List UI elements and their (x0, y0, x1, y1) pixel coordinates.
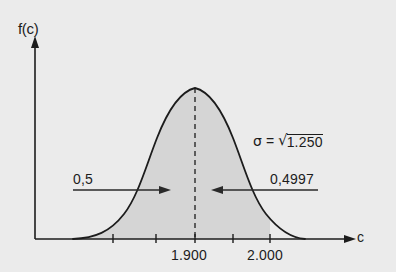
right-area-label: 0,4997 (270, 172, 314, 186)
shaded-area-under-curve (73, 88, 270, 239)
y-axis-label: f(c) (18, 21, 38, 36)
radicand-value: 1.250 (287, 134, 323, 149)
sigma-formula: σ = √ 1.250 (253, 134, 323, 149)
distribution-plot-svg (0, 0, 396, 272)
sigma-symbol: σ (253, 134, 262, 148)
x-tick-label-bound: 2.000 (247, 248, 283, 262)
x-tick-label-mean: 1.900 (171, 248, 207, 262)
radical-icon: √ (278, 133, 288, 148)
left-area-label: 0,5 (73, 172, 93, 186)
equals-sign: = (266, 134, 274, 148)
x-axis-arrowhead (344, 235, 356, 243)
normal-distribution-figure: f(c) c 1.900 2.000 0,5 0,4997 σ = √ 1.25… (0, 0, 396, 272)
x-axis-label: c (357, 230, 364, 244)
y-axis-arrowhead (31, 36, 39, 48)
